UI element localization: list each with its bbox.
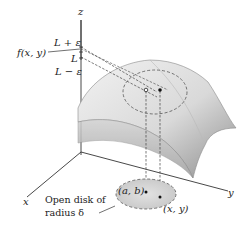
x-axis-label: x [23, 196, 29, 207]
open-point-on-surface [144, 88, 148, 92]
function-value-leader [48, 49, 80, 52]
point-x-y [159, 196, 162, 199]
z-axis-label: z [77, 6, 84, 17]
point-a-b-label: (a, b) [118, 185, 145, 196]
disk-label-leader [99, 206, 115, 213]
filled-point-on-surface [158, 88, 162, 92]
tick-label-middle: L [70, 53, 78, 64]
point-a-b [145, 191, 148, 194]
surface [78, 60, 236, 178]
limit-definition-diagram: z x y f(x, y) L + ε L L − ε (a, b) (x, y… [0, 0, 239, 226]
tick-label-upper: L + ε [53, 37, 81, 48]
tick-label-lower: L − ε [54, 66, 82, 77]
point-x-y-label: (x, y) [163, 203, 189, 214]
function-label: f(x, y) [16, 47, 46, 58]
y-axis-label: y [227, 187, 234, 198]
disk-label-line2: radius δ [45, 207, 84, 218]
disk-label-line1: Open disk of [45, 194, 107, 205]
